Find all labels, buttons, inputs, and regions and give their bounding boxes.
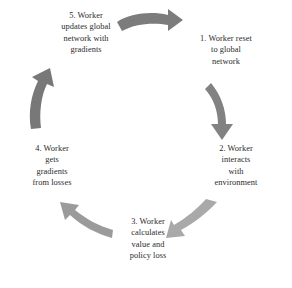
cycle-step-1-label: 1. Worker reset to global network bbox=[176, 33, 276, 67]
arrow-1-to-2-icon bbox=[205, 83, 233, 140]
cycle-step-4-label: 4. Worker gets gradients from losses bbox=[8, 143, 96, 189]
cycle-step-5-label: 5. Worker updates global network with gr… bbox=[40, 10, 132, 56]
arrow-4-to-5-icon bbox=[30, 68, 54, 129]
cycle-step-3-label: 3. Worker calculates value and policy lo… bbox=[108, 216, 188, 262]
cycle-diagram: 1. Worker reset to global network 2. Wor… bbox=[0, 0, 292, 288]
arrow-3-to-4-icon bbox=[60, 202, 113, 238]
cycle-step-2-label: 2. Worker interacts with environment bbox=[186, 143, 286, 189]
